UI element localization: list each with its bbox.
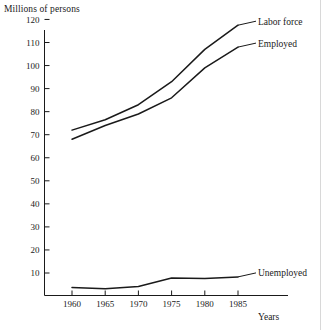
y-tick-label: 60 <box>31 153 41 163</box>
line-labor-force <box>72 25 238 130</box>
y-tick-label: 70 <box>31 130 41 140</box>
y-tick-label: 30 <box>31 222 41 232</box>
y-tick-label: 110 <box>26 38 40 48</box>
y-tick-label: 120 <box>26 15 40 25</box>
y-tick-label: 90 <box>31 84 41 94</box>
x-tick-label: 1980 <box>196 299 215 309</box>
series-group <box>72 25 238 289</box>
x-tick-group: 196019651970197519801985 <box>63 291 248 309</box>
x-tick-label: 1965 <box>96 299 115 309</box>
y-tick-label: 10 <box>31 268 41 278</box>
x-tick-label: 1970 <box>129 299 148 309</box>
line-unemployed <box>72 277 238 289</box>
leader-line-employed <box>238 43 256 47</box>
series-label-unemployed: Unemployed <box>258 268 307 278</box>
y-tick-label: 80 <box>31 107 41 117</box>
x-tick-label: 1985 <box>229 299 248 309</box>
x-tick-label: 1975 <box>163 299 182 309</box>
y-tick-label: 50 <box>31 176 41 186</box>
y-tick-label: 40 <box>31 199 41 209</box>
y-tick-group: 102030405060708090100110120 <box>26 15 50 279</box>
axis-group <box>45 30 289 296</box>
leader-line-labor-force <box>238 21 256 25</box>
series-label-group: Labor force Employed Unemployed <box>238 17 307 279</box>
leader-line-unemployed <box>238 273 256 277</box>
series-label-labor-force: Labor force <box>258 17 303 27</box>
x-axis-title: Years <box>258 312 280 322</box>
line-chart-plot: 102030405060708090100110120 196019651970… <box>0 0 321 330</box>
y-tick-label: 100 <box>26 61 40 71</box>
x-tick-label: 1960 <box>63 299 82 309</box>
y-tick-label: 20 <box>31 245 41 255</box>
chart-figure: Millions of persons 10203040506070809010… <box>0 0 321 330</box>
series-label-employed: Employed <box>258 39 297 49</box>
